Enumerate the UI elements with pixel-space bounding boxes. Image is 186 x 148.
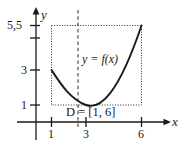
function-graph-figure: 5,5 3 1 1 3 6 y x y = f(x) D = [1, 6] <box>0 0 186 148</box>
y-axis-label: y <box>41 8 47 21</box>
function-label: y = f(x) <box>82 53 118 65</box>
y-tick-label-1: 1 <box>21 99 27 111</box>
y-axis-arrowhead <box>33 7 40 15</box>
domain-label: D = [1, 6] <box>66 106 115 119</box>
x-tick-label-3: 3 <box>83 128 89 140</box>
x-tick-label-6: 6 <box>138 128 144 140</box>
y-tick-label-3: 3 <box>21 64 27 76</box>
graph-canvas <box>0 0 186 148</box>
x-axis-arrowhead <box>164 119 172 126</box>
y-tick-label-5-5: 5,5 <box>7 19 22 31</box>
x-axis-label: x <box>172 115 178 128</box>
x-tick-label-1: 1 <box>48 128 54 140</box>
